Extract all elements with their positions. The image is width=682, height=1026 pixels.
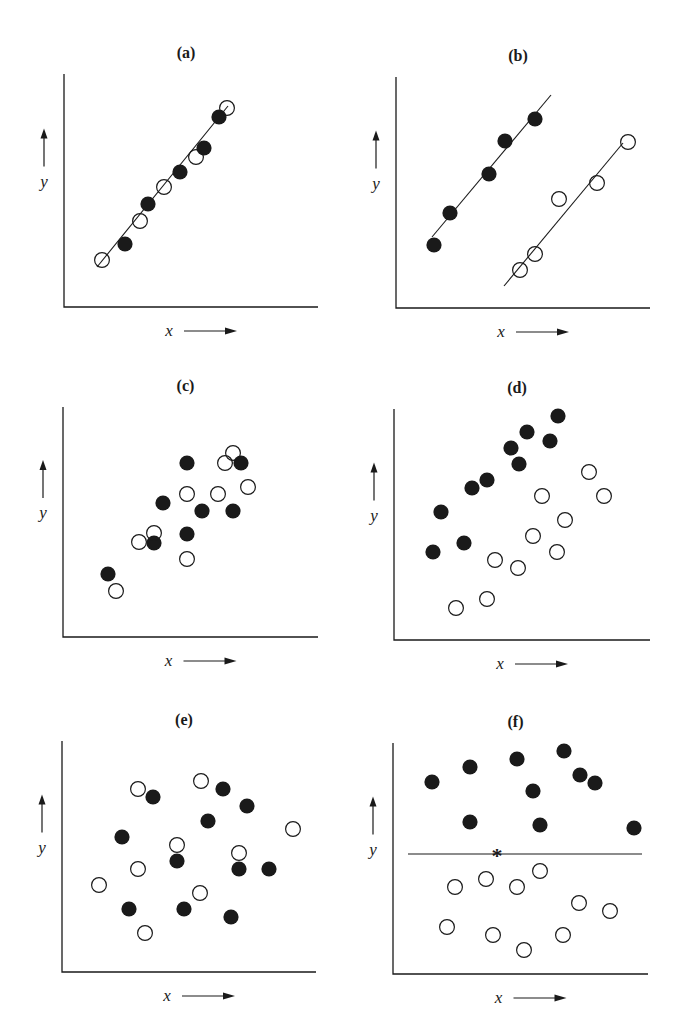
open-point — [131, 782, 146, 797]
filled-point — [261, 861, 276, 876]
y-axis-label: y — [367, 840, 377, 859]
panel-title: (b) — [508, 47, 528, 65]
open-point — [194, 774, 209, 789]
panel-f: (f)yx* — [367, 713, 648, 1007]
x-arrowhead-icon — [557, 329, 569, 336]
open-point — [488, 553, 503, 568]
filled-point — [511, 456, 526, 471]
x-axis-label: x — [496, 322, 505, 341]
x-axis-label: x — [164, 321, 173, 340]
filled-point — [239, 798, 254, 813]
x-axis-label: x — [162, 986, 171, 1005]
y-axis-label: y — [38, 172, 48, 191]
y-arrowhead-icon — [370, 797, 377, 807]
open-point — [138, 926, 153, 941]
open-point — [510, 880, 525, 895]
panel-c: (c)yx — [37, 377, 318, 670]
filled-point — [233, 455, 248, 470]
panel-e: (e)yx — [36, 711, 316, 1005]
filled-point — [179, 455, 194, 470]
filled-point — [550, 408, 565, 423]
filled-point — [211, 109, 226, 124]
filled-point — [145, 789, 160, 804]
open-point — [480, 592, 495, 607]
y-axis-label: y — [370, 174, 380, 193]
y-axis-label: y — [36, 838, 46, 857]
open-point — [552, 192, 567, 207]
axes-frame — [63, 407, 318, 637]
scatter-figure: (a)yx(b)yx(c)yx(d)yx(e)yx(f)yx* — [0, 0, 682, 1026]
y-axis-label: y — [37, 503, 47, 522]
open-point — [597, 489, 612, 504]
y-arrowhead-icon — [371, 463, 378, 473]
filled-point — [140, 196, 155, 211]
open-point — [556, 928, 571, 943]
filled-point — [121, 901, 136, 916]
axes-frame — [396, 77, 650, 308]
filled-point — [172, 164, 187, 179]
filled-point — [556, 743, 571, 758]
open-point — [448, 880, 463, 895]
panel-title: (a) — [177, 44, 196, 62]
filled-point — [626, 820, 641, 835]
x-axis-label: x — [164, 651, 173, 670]
y-arrowhead-icon — [41, 129, 48, 139]
x-arrowhead-icon — [556, 661, 568, 668]
panel-a: (a)yx — [38, 44, 318, 340]
filled-point — [462, 814, 477, 829]
x-arrowhead-icon — [225, 658, 237, 665]
x-arrowhead-icon — [223, 993, 235, 1000]
axes-frame — [394, 409, 650, 640]
open-point — [486, 928, 501, 943]
filled-point — [479, 472, 494, 487]
x-axis-label: x — [495, 654, 504, 673]
open-point — [517, 943, 532, 958]
filled-point — [117, 236, 132, 251]
open-point — [232, 846, 247, 861]
filled-point — [587, 775, 602, 790]
open-point — [590, 176, 605, 191]
filled-point — [425, 544, 440, 559]
filled-point — [433, 504, 448, 519]
filled-point — [200, 813, 215, 828]
filled-point — [176, 901, 191, 916]
axes-frame — [64, 74, 318, 307]
open-point — [513, 263, 528, 278]
filled-point — [464, 480, 479, 495]
open-point — [511, 561, 526, 576]
panel-d: (d)yx — [368, 379, 650, 673]
open-point — [226, 446, 241, 461]
y-arrowhead-icon — [40, 460, 47, 470]
panel-title: (c) — [177, 377, 195, 395]
open-point — [132, 535, 147, 550]
open-point — [603, 904, 618, 919]
axes-frame — [62, 741, 316, 972]
filled-point — [196, 140, 211, 155]
filled-point — [194, 503, 209, 518]
filled-point — [424, 774, 439, 789]
open-point — [241, 480, 256, 495]
open-point — [582, 465, 597, 480]
filled-point — [503, 440, 518, 455]
open-point — [535, 489, 550, 504]
x-arrowhead-icon — [225, 328, 237, 335]
panel-title: (e) — [175, 711, 193, 729]
filled-point — [215, 781, 230, 796]
filled-point — [462, 759, 477, 774]
filled-point — [179, 526, 194, 541]
filled-point — [426, 237, 441, 252]
filled-point — [519, 424, 534, 439]
x-axis-label: x — [494, 988, 503, 1007]
filled-point — [169, 853, 184, 868]
open-point — [558, 513, 573, 528]
fit-line — [97, 106, 228, 267]
filled-point — [223, 909, 238, 924]
filled-point — [532, 817, 547, 832]
open-point — [170, 838, 185, 853]
filled-point — [572, 767, 587, 782]
open-point — [180, 552, 195, 567]
filled-point — [114, 829, 129, 844]
filled-point — [456, 535, 471, 550]
open-point — [131, 862, 146, 877]
panel-title: (d) — [507, 379, 527, 397]
